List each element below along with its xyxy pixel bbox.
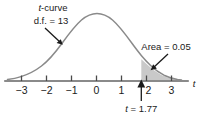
- curve-label-line1: t-curve: [38, 2, 67, 13]
- tick-label-neg3: −3: [16, 84, 28, 96]
- tick-label-neg2: −2: [41, 84, 53, 96]
- t-curve-chart: −3 −2 −1 0 1 2 3 t t-curve d.f. = 13 Are…: [0, 0, 209, 120]
- tick-label-zero: 0: [94, 84, 100, 96]
- x-axis-tick-labels: −3 −2 −1 0 1 2 3: [16, 84, 175, 96]
- area-label-leader-arrow: [151, 54, 168, 70]
- curve-label-leader-arrow: [45, 28, 63, 45]
- tick-label-pos1: 1: [119, 84, 125, 96]
- curve-label-suffix: -curve: [41, 2, 67, 13]
- x-axis-name-label: t: [193, 78, 196, 89]
- tick-label-pos2: 2: [146, 84, 152, 96]
- t-stat-label-value: = 1.77: [128, 103, 157, 114]
- t-distribution-figure: −3 −2 −1 0 1 2 3 t t-curve d.f. = 13 Are…: [0, 0, 209, 120]
- tick-label-pos3: 3: [169, 84, 175, 96]
- tick-label-neg1: −1: [66, 84, 78, 96]
- curve-label-line2-df: d.f. = 13: [34, 15, 69, 26]
- area-label: Area = 0.05: [141, 41, 190, 52]
- t-stat-label: t = 1.77: [125, 103, 157, 114]
